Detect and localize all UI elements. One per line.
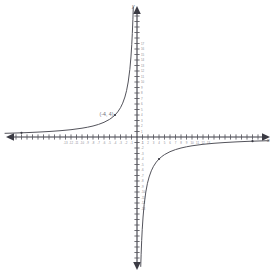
y-tick-label: 4 <box>141 113 143 117</box>
x-tick-label: -2 <box>125 141 128 145</box>
x-tick-label: -1 <box>130 141 133 145</box>
x-axis-label: x <box>266 137 270 143</box>
graph-canvas: x y -13-12-11-10-9-8-7-6-5-4-3-2-1123456… <box>0 0 275 276</box>
y-tick-label: -6 <box>141 168 144 172</box>
y-tick-label: 13 <box>141 64 145 68</box>
y-tick-label: -5 <box>141 163 144 167</box>
y-tick-label: -9 <box>141 185 144 189</box>
y-tick-label: 6 <box>141 102 143 106</box>
x-tick-label: -5 <box>108 141 111 145</box>
x-tick-label: -10 <box>80 141 85 145</box>
curve-point-marker <box>251 140 253 142</box>
y-tick-label: 1 <box>141 130 143 134</box>
y-tick-label: 10 <box>141 80 145 84</box>
x-tick-label: -8 <box>92 141 95 145</box>
coordinate-plane-svg: x y -13-12-11-10-9-8-7-6-5-4-3-2-1123456… <box>0 0 275 276</box>
curve-point-marker <box>158 158 160 160</box>
curve-branch-quadrant-ii <box>5 8 133 134</box>
x-tick-label: -11 <box>75 141 79 145</box>
y-tick-label: -10 <box>141 190 146 194</box>
curve-point-marker <box>114 114 116 116</box>
y-tick-label: 17 <box>141 42 145 46</box>
y-tick-label: 7 <box>141 97 143 101</box>
y-tick-label: -8 <box>141 179 144 183</box>
x-tick-label: 2 <box>147 141 149 145</box>
y-tick-label: 8 <box>141 91 143 95</box>
x-tick-label: -4 <box>114 141 117 145</box>
curve-point-marker <box>20 132 22 134</box>
y-tick-label: -2 <box>141 146 144 150</box>
y-tick-label: 9 <box>141 86 143 90</box>
y-tick-label: 14 <box>141 58 145 62</box>
x-tick-label: 3 <box>153 141 155 145</box>
x-tick-label: -6 <box>103 141 106 145</box>
y-axis-arrow-down <box>133 262 141 270</box>
y-tick-label: -4 <box>141 157 144 161</box>
x-tick-label: 5 <box>164 141 166 145</box>
point-coordinate-label: (-4, 4) <box>100 111 114 117</box>
x-tick-label: -12 <box>69 141 74 145</box>
x-tick-label: 10 <box>190 141 194 145</box>
x-tick-label: 6 <box>169 141 171 145</box>
x-tick-label: -3 <box>119 141 122 145</box>
y-tick-label: 12 <box>141 69 145 73</box>
x-tick-label: 7 <box>175 141 177 145</box>
y-tick-label: 3 <box>141 119 143 123</box>
x-tick-label: 8 <box>180 141 182 145</box>
curve-branch-quadrant-iv <box>141 141 269 267</box>
y-tick-label: 5 <box>141 108 143 112</box>
x-tick-label: -13 <box>63 141 68 145</box>
y-tick-label: -3 <box>141 152 144 156</box>
y-tick-label: 2 <box>141 124 143 128</box>
y-tick-label: -7 <box>141 174 144 178</box>
y-tick-label: 11 <box>141 75 144 79</box>
x-tick-label: 9 <box>186 141 188 145</box>
x-axis-arrow-left <box>6 133 14 141</box>
x-tick-label: -9 <box>86 141 89 145</box>
y-tick-label: 15 <box>141 53 145 57</box>
x-tick-label: 4 <box>158 141 160 145</box>
x-tick-label: -7 <box>97 141 100 145</box>
y-tick-label: 16 <box>141 47 145 51</box>
y-tick-label: -1 <box>141 141 144 145</box>
